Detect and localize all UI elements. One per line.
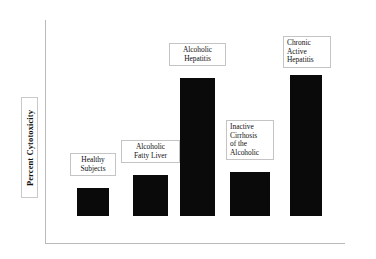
- plot-area: HealthySubjectsAlcoholicFatty LiverAlcoh…: [0, 0, 376, 259]
- bar-label-line: Fatty Liver: [125, 152, 176, 161]
- bar: [77, 188, 109, 216]
- bar-label: InactiveCirrhosisof theAlcoholic: [226, 120, 274, 160]
- bar-label-line: Subjects: [74, 165, 112, 174]
- bar-label-line: Hepatitis: [173, 55, 222, 64]
- bar: [230, 172, 270, 216]
- bar-label: HealthySubjects: [70, 153, 116, 176]
- bar-label: AlcoholicFatty Liver: [121, 140, 180, 163]
- bar-label-line: Alcoholic: [230, 149, 270, 158]
- bar: [133, 175, 168, 216]
- bar-label-line: Hepatitis: [287, 56, 327, 65]
- bar: [290, 75, 322, 216]
- chart-figure: Percent Cytotoxicity HealthySubjectsAlco…: [0, 0, 376, 259]
- bar-label: ChronicActiveHepatitis: [283, 36, 331, 68]
- bar-label: AlcoholicHepatitis: [169, 43, 226, 66]
- bar: [180, 78, 215, 216]
